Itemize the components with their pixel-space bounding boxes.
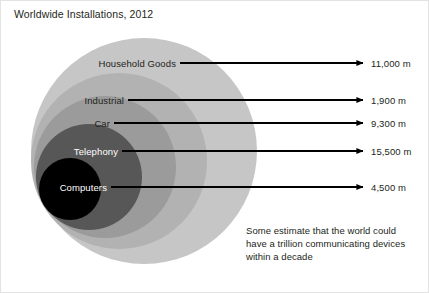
chart-figure: Worldwide Installations, 2012 Household …: [0, 0, 429, 293]
footnote-line-2: have a trillion communicating devices: [246, 237, 426, 250]
value-label-computers: 4,500 m: [371, 182, 406, 193]
ring-label-telephony: Telephony: [74, 146, 118, 157]
value-label-telephony: 15,500 m: [371, 146, 411, 157]
ring-label-computers: Computers: [60, 182, 107, 193]
ring-label-car: Car: [94, 118, 110, 129]
footnote-line-3: within a decade: [246, 250, 426, 263]
footnote-text: Some estimate that the world couldhave a…: [246, 224, 426, 264]
ring-label-industrial: Industrial: [84, 95, 124, 106]
value-label-industrial: 1,900 m: [371, 95, 406, 106]
value-label-household-goods: 11,000 m: [371, 58, 411, 69]
value-label-car: 9,300 m: [371, 118, 406, 129]
ring-label-household-goods: Household Goods: [98, 58, 176, 69]
footnote-line-1: Some estimate that the world could: [246, 224, 426, 237]
